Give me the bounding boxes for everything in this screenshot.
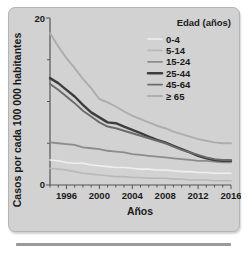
series-line-65 [50, 33, 231, 143]
legend-label: 15-24 [166, 56, 191, 67]
legend-label: 25-44 [166, 68, 191, 79]
chart-panel: Casos por cada 100 000 habitantes 20 0 1… [8, 7, 240, 232]
series-line-5-14 [50, 168, 231, 181]
legend-label: 45-64 [166, 79, 191, 90]
x-axis-tick-label: 2004 [122, 190, 144, 201]
y-axis-title: Casos por cada 100 000 habitantes [11, 33, 23, 208]
x-axis-tick-label: 2012 [188, 190, 209, 201]
x-axis-tick-label: 2000 [89, 190, 110, 201]
legend-title: Edad (años) [177, 17, 231, 28]
y-axis-tick-label-top: 20 [34, 13, 45, 24]
legend-label: 0-4 [166, 34, 180, 45]
legend-label: 5-14 [166, 45, 186, 56]
x-axis-tick-label: 1996 [56, 190, 77, 201]
bottom-divider-rule [16, 243, 231, 246]
x-axis-tick-label: 2008 [155, 190, 176, 201]
legend-label: ≥ 65 [166, 91, 185, 102]
y-axis-tick-label-bottom: 0 [40, 179, 45, 190]
series-line-0-4 [50, 160, 231, 173]
series-lines [50, 33, 231, 181]
x-axis-title: Años [127, 205, 153, 217]
legend-entries: 0-45-1415-2425-4445-64≥ 65 [148, 34, 191, 102]
series-line-45-64 [50, 84, 231, 160]
line-chart: Casos por cada 100 000 habitantes 20 0 1… [9, 8, 241, 233]
x-axis-tick-label: 2016 [220, 190, 241, 201]
x-axis-tick-labels: 199620002004200820122016 [56, 190, 241, 201]
figure-container: Casos por cada 100 000 habitantes 20 0 1… [0, 0, 249, 256]
legend: Edad (años) 0-45-1415-2425-4445-64≥ 65 [148, 17, 231, 102]
series-line-15-24 [50, 142, 231, 162]
